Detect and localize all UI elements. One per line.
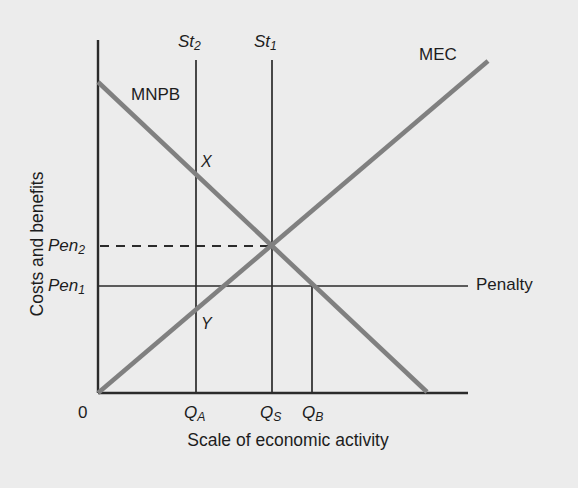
mnpb-curve-label: MNPB bbox=[131, 86, 180, 103]
mec-curve bbox=[98, 61, 488, 393]
qb-tick-label: QB bbox=[302, 404, 323, 421]
qs-tick-label: QS bbox=[260, 404, 281, 421]
pen1-label-sub: 1 bbox=[78, 283, 85, 297]
pen2-tick-label: Pen2 bbox=[48, 237, 85, 254]
qa-label-text: Q bbox=[184, 403, 197, 422]
qs-label-sub: S bbox=[273, 410, 281, 424]
origin-label: 0 bbox=[78, 404, 87, 421]
mec-curve-label: MEC bbox=[419, 46, 457, 63]
pen1-tick-label: Pen1 bbox=[48, 277, 85, 294]
pen2-label-sub: 2 bbox=[78, 243, 85, 257]
mnpb-curve bbox=[98, 82, 427, 392]
point-y-label: Y bbox=[201, 316, 212, 332]
st1-label: St1 bbox=[254, 33, 277, 50]
economics-diagram-figure: Costs and benefits Scale of economic act… bbox=[0, 0, 578, 488]
st2-label-text: St bbox=[178, 32, 194, 51]
qa-tick-label: QA bbox=[184, 404, 205, 421]
pen2-label-text: Pen bbox=[48, 236, 78, 255]
qb-label-sub: B bbox=[315, 410, 323, 424]
x-axis-title: Scale of economic activity bbox=[187, 432, 388, 450]
st1-label-text: St bbox=[254, 32, 270, 51]
y-axis-title: Costs and benefits bbox=[29, 172, 47, 317]
st2-label-sub: 2 bbox=[194, 39, 201, 53]
penalty-line-label: Penalty bbox=[476, 276, 533, 293]
st2-label: St2 bbox=[178, 33, 201, 50]
qa-label-sub: A bbox=[197, 410, 205, 424]
st1-label-sub: 1 bbox=[270, 39, 277, 53]
qb-label-text: Q bbox=[302, 403, 315, 422]
point-x-label: X bbox=[201, 154, 212, 170]
pen1-label-text: Pen bbox=[48, 276, 78, 295]
qs-label-text: Q bbox=[260, 403, 273, 422]
